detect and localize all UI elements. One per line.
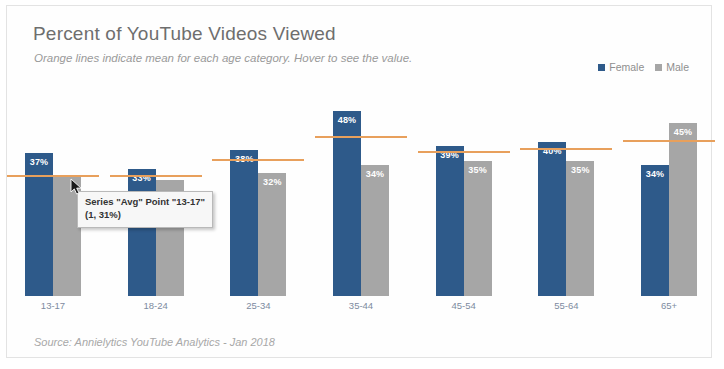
mean-line[interactable] — [7, 175, 99, 177]
bar-value-label: 45% — [669, 127, 697, 137]
bar-value-label: 37% — [25, 157, 53, 167]
bar-female[interactable]: 33% — [128, 169, 156, 296]
mean-line[interactable] — [315, 136, 407, 138]
bar-female[interactable]: 48% — [333, 111, 361, 296]
bar-value-label: 35% — [566, 165, 594, 175]
bar-value-label: 32% — [258, 177, 286, 187]
legend-item-male[interactable]: Male — [655, 61, 689, 73]
x-axis-labels: 13-1718-2425-3435-4445-5455-6465+ — [25, 300, 697, 316]
bar-group: 38%32% — [230, 84, 286, 296]
chart-legend: Female Male — [598, 61, 689, 73]
mouse-cursor-icon — [70, 178, 84, 196]
legend-label-female: Female — [609, 61, 644, 73]
x-axis-label: 25-34 — [218, 300, 298, 311]
mean-line[interactable] — [418, 151, 510, 153]
x-axis-label: 13-17 — [13, 300, 93, 311]
chart-subtitle: Orange lines indicate mean for each age … — [34, 52, 412, 64]
bar-group: 48%34% — [333, 84, 389, 296]
bar-value-label: 34% — [361, 169, 389, 179]
x-axis-label: 35-44 — [321, 300, 401, 311]
x-axis-label: 55-64 — [526, 300, 606, 311]
bar-male[interactable]: 35% — [566, 161, 594, 296]
bar-group: 33% — [128, 84, 184, 296]
chart-plot-area: 37%33%38%32%48%34%39%35%40%35%34%45% — [25, 84, 697, 296]
bar-value-label: 34% — [641, 169, 669, 179]
bar-male[interactable]: 35% — [464, 161, 492, 296]
tooltip-value-line: (1, 31%) — [85, 209, 205, 222]
legend-swatch-male — [655, 64, 662, 71]
page-title: Percent of YouTube Videos Viewed — [33, 23, 336, 45]
mean-line[interactable] — [623, 140, 715, 142]
chart-card: Percent of YouTube Videos Viewed Orange … — [6, 5, 712, 358]
bar-female[interactable]: 34% — [641, 165, 669, 296]
bar-group: 40%35% — [538, 84, 594, 296]
x-axis-label: 18-24 — [116, 300, 196, 311]
legend-item-female[interactable]: Female — [598, 61, 644, 73]
mean-line[interactable] — [110, 175, 202, 177]
bar-value-label: 48% — [333, 115, 361, 125]
bar-male[interactable]: 34% — [361, 165, 389, 296]
bar-male[interactable]: 45% — [669, 123, 697, 296]
hover-tooltip: Series "Avg" Point "13-17" (1, 31%) — [77, 191, 213, 228]
bar-female[interactable]: 40% — [538, 142, 566, 296]
tooltip-series-line: Series "Avg" Point "13-17" — [85, 196, 205, 209]
x-axis-label: 65+ — [629, 300, 709, 311]
legend-label-male: Male — [666, 61, 689, 73]
source-note: Source: Annielytics YouTube Analytics - … — [34, 336, 275, 348]
mean-line[interactable] — [520, 148, 612, 150]
bar-male[interactable]: 32% — [258, 173, 286, 296]
bar-value-label: 35% — [464, 165, 492, 175]
mean-line[interactable] — [212, 159, 304, 161]
bar-female[interactable]: 39% — [436, 146, 464, 296]
bar-group: 34%45% — [641, 84, 697, 296]
bar-group: 39%35% — [436, 84, 492, 296]
x-axis-label: 45-54 — [424, 300, 504, 311]
legend-swatch-female — [598, 64, 605, 71]
bar-female[interactable]: 38% — [230, 150, 258, 296]
